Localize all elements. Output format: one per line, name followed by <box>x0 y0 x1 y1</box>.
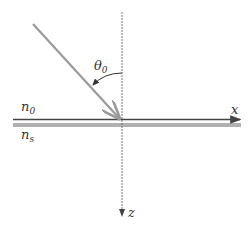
angle-label: θ0 <box>94 58 108 75</box>
substrate-index-label: ns <box>21 127 34 144</box>
z-axis-label: z <box>127 205 135 220</box>
substrate-layer <box>13 123 241 127</box>
incidence-diagram: θ0 n0 ns x z <box>0 0 250 228</box>
ambient-index-label: n0 <box>21 99 35 116</box>
x-axis-label: x <box>231 102 239 117</box>
